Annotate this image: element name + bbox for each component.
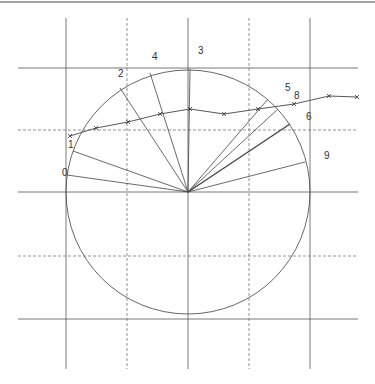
radial-line [150,73,188,192]
point-label-3: 3 [198,45,204,56]
radial-lines [67,69,305,192]
point-label-6: 6 [306,111,312,122]
point-label-4: 4 [152,51,158,62]
radial-line [188,99,268,192]
radial-line [73,151,188,192]
point-label-9: 9 [324,150,330,161]
radial-line [67,175,188,192]
point-label-1: 1 [68,139,74,150]
point-labels: 012435869 [62,45,330,178]
point-label-8: 8 [294,90,300,101]
point-label-0: 0 [62,167,68,178]
point-label-5: 5 [285,82,291,93]
marked-curve [68,94,359,138]
geometry-diagram: 012435869 [0,0,375,384]
radial-line [188,124,290,192]
radial-line [188,109,278,192]
radial-line [120,88,188,192]
radial-line [188,162,305,192]
point-label-2: 2 [118,68,124,79]
